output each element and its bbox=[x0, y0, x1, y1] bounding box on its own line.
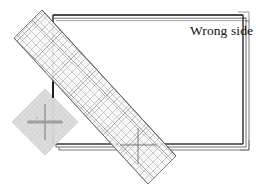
wrong-side-label: Wrong side bbox=[190, 24, 253, 38]
illustration-canvas: Wrong side 45° bbox=[0, 0, 262, 192]
ruler-printed-band bbox=[28, 120, 62, 123]
